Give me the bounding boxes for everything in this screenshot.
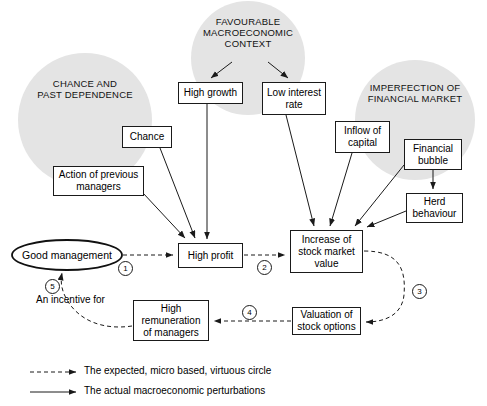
cloud-label-line: FAVOURABLE [188,16,308,27]
cloud-label-chance-past-dependence: CHANCE AND PAST DEPENDENCE [20,78,150,100]
legend-symbols [30,372,76,392]
marker-1: 1 [118,261,133,276]
cloud-label-line: CHANCE AND [20,78,150,89]
edge-action-to-high-profit [143,193,185,238]
edge-financial-bubble-to-increase-value [355,165,404,226]
node-low-interest-rate[interactable]: Low interest rate [262,82,326,115]
node-financial-bubble[interactable]: Financial bubble [404,139,462,170]
node-herd-behaviour[interactable]: Herd behaviour [406,193,463,223]
node-inflow-of-capital[interactable]: Inflow of capital [335,121,390,153]
edge-herd-behaviour-to-increase-value [367,211,406,227]
annotation-an-incentive-for: An incentive for [36,294,105,305]
cloud-label-line: CONTEXT [188,38,308,49]
node-good-management-label[interactable]: Good management [12,240,122,270]
cloud-label-line: PAST DEPENDENCE [20,89,150,100]
node-increase-of-stock-market-value[interactable]: Increase of stock market value [290,230,363,273]
cloud-label-line: FINANCIAL MARKET [355,93,475,104]
edge-increase-value-to-valuation [364,251,404,322]
edge-chance-to-high-profit [160,148,195,238]
cloud-label-line: IMPERFECTION OF [355,82,475,93]
node-action-of-previous-managers[interactable]: Action of previous managers [53,166,144,196]
marker-4: 4 [242,305,257,320]
cloud-label-line: MACROECONOMIC [188,27,308,38]
edge-low-interest-rate-to-increase-value [286,115,314,226]
node-high-profit[interactable]: High profit [178,243,243,268]
diagram-canvas: CHANCE AND PAST DEPENDENCE FAVOURABLE MA… [0,0,487,406]
node-valuation-of-stock-options[interactable]: Valuation of stock options [292,307,361,335]
edge-inflow-capital-to-increase-value [330,153,352,226]
cloud-label-favourable-macroeconomic-context: FAVOURABLE MACROECONOMIC CONTEXT [188,16,308,49]
node-chance[interactable]: Chance [122,126,172,148]
node-high-remuneration-of-managers[interactable]: High remuneration of managers [133,300,209,341]
marker-3: 3 [412,284,427,299]
legend-label-expected: The expected, micro based, virtuous circ… [84,365,271,376]
cloud-label-imperfection-of-financial-market: IMPERFECTION OF FINANCIAL MARKET [355,82,475,104]
node-high-growth[interactable]: High growth [178,82,243,104]
marker-2: 2 [257,260,272,275]
marker-5: 5 [45,279,60,294]
legend-label-actual: The actual macroeconomic perturbations [84,385,265,396]
